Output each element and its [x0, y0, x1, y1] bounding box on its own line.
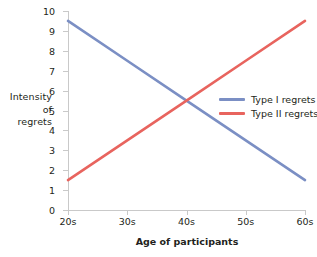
legend: Type I regrets Type II regrets	[219, 94, 317, 119]
y-axis-title-line-3: regrets	[0, 116, 52, 129]
x-tick-60s	[305, 210, 306, 215]
y-tick-label-9: 9	[49, 25, 55, 36]
x-tick-label-30s: 30s	[119, 216, 136, 227]
legend-swatch-icon-type-i	[219, 98, 245, 101]
x-tick-20s	[68, 210, 69, 215]
y-tick-label-7: 7	[49, 65, 55, 76]
x-tick-label-20s: 20s	[59, 216, 76, 227]
plot-area: 012345678910 20s30s40s50s60s Type I regr…	[68, 11, 305, 210]
y-tick-label-4: 4	[49, 125, 55, 136]
y-axis-title-line-2: of	[0, 104, 52, 117]
y-tick-label-6: 6	[49, 85, 55, 96]
x-tick-50s	[246, 210, 247, 215]
x-tick-40s	[187, 210, 188, 215]
x-tick-30s	[127, 210, 128, 215]
x-tick-label-40s: 40s	[178, 216, 195, 227]
x-tick-label-50s: 50s	[237, 216, 254, 227]
y-tick-label-5: 5	[49, 105, 55, 116]
x-tick-label-60s: 60s	[296, 216, 313, 227]
y-tick-label-10: 10	[43, 6, 55, 17]
legend-item-type-ii[interactable]: Type II regrets	[219, 108, 317, 119]
y-tick-label-2: 2	[49, 165, 55, 176]
y-axis-title: Intensity of regrets	[0, 91, 52, 129]
legend-label-type-ii: Type II regrets	[251, 108, 317, 119]
y-tick-label-3: 3	[49, 145, 55, 156]
y-tick-label-1: 1	[49, 185, 55, 196]
legend-label-type-i: Type I regrets	[251, 94, 315, 105]
legend-item-type-i[interactable]: Type I regrets	[219, 94, 317, 105]
line-chart: Intensity of regrets 012345678910 20s30s…	[0, 0, 317, 257]
x-axis-title: Age of participants	[68, 236, 306, 247]
legend-swatch-icon-type-ii	[219, 112, 245, 115]
y-tick-label-0: 0	[49, 205, 55, 216]
y-axis-title-line-1: Intensity	[0, 91, 52, 104]
y-tick-label-8: 8	[49, 45, 55, 56]
